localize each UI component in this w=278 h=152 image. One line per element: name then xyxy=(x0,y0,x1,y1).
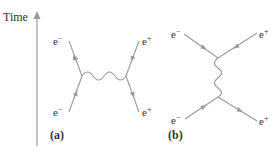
a-top-left-line xyxy=(69,41,82,76)
feynman-diagrams-figure: Time e− e− e+ e+ (a) xyxy=(0,0,278,152)
a-top-right-line xyxy=(126,41,139,76)
time-axis-label: Time xyxy=(3,10,28,24)
b-top-left-line xyxy=(184,34,218,58)
a-bottom-right-line xyxy=(126,76,139,112)
b-bottom-left-line xyxy=(185,97,218,119)
a-bottom-left-line xyxy=(69,76,82,112)
b-label-bottom-left: e− xyxy=(171,113,181,126)
figure-canvas: Time e− e− e+ e+ (a) xyxy=(0,0,278,152)
panel-label-b: (b) xyxy=(168,128,183,142)
a-photon-line xyxy=(82,72,126,80)
a-label-top-right: e+ xyxy=(142,34,152,47)
panel-label-a: (a) xyxy=(50,128,64,142)
b-label-bottom-right: e+ xyxy=(259,114,269,127)
b-label-top-right: e+ xyxy=(259,27,269,40)
b-top-right-line xyxy=(218,33,257,58)
b-label-top-left: e− xyxy=(171,27,181,40)
a-label-bottom-right: e+ xyxy=(142,105,152,118)
diagram-a: e− e− e+ e+ (a) xyxy=(50,34,152,142)
time-axis: Time xyxy=(3,10,41,146)
b-bottom-right-line xyxy=(218,97,257,121)
a-label-bottom-left: e− xyxy=(53,105,63,118)
b-photon-line xyxy=(215,58,222,97)
time-axis-arrow-icon xyxy=(34,11,41,19)
diagram-b: e− e+ e− e+ (b) xyxy=(168,27,269,142)
a-label-top-left: e− xyxy=(53,34,63,47)
